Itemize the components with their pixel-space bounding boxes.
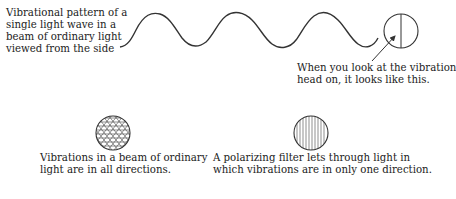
caption-line: head on, it looks like this. (297, 74, 456, 86)
caption-line: light are in all directions. (40, 164, 208, 176)
caption-line: beam of ordinary light (6, 31, 127, 43)
caption-line: single light wave in a (6, 19, 127, 31)
sine-wave (120, 13, 378, 48)
pointer-arrow (372, 36, 395, 61)
polarized-light-caption: A polarizing filter lets through light i… (213, 152, 432, 176)
side-view-caption: Vibrational pattern of a single light wa… (6, 7, 127, 55)
caption-line: which vibrations are in only one directi… (213, 164, 432, 176)
caption-line: A polarizing filter lets through light i… (213, 152, 432, 164)
head-on-caption: When you look at the vibration head on, … (297, 62, 456, 86)
ordinary-light-caption: Vibrations in a beam of ordinary light a… (40, 152, 208, 176)
caption-line: When you look at the vibration (297, 62, 456, 74)
caption-line: Vibrational pattern of a (6, 7, 127, 19)
caption-line: Vibrations in a beam of ordinary (40, 152, 208, 164)
caption-line: viewed from the side (6, 43, 127, 55)
